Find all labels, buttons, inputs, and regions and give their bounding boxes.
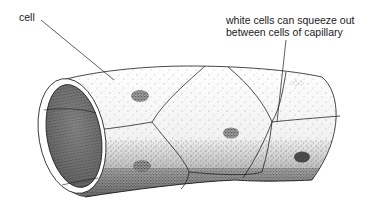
- nucleus-2: [223, 128, 239, 139]
- cell-leader-line: [41, 20, 114, 80]
- white-cells-label-line-1: white cells can squeeze out: [226, 14, 354, 26]
- cell-label: cell: [19, 11, 35, 23]
- nucleus-4: [133, 160, 151, 172]
- nucleus-3: [290, 80, 304, 87]
- white-cells-label-line-2: between cells of capillary: [226, 26, 354, 38]
- nucleus-1: [131, 90, 149, 102]
- white-cells-label: white cells can squeeze out between cell…: [226, 14, 354, 38]
- nucleus-5: [294, 152, 310, 163]
- capillary-diagram: cell white cells can squeeze out between…: [0, 0, 372, 217]
